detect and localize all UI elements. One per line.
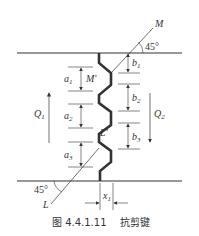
label-x1: x1: [102, 190, 111, 203]
label-Q1: Q1: [34, 108, 45, 121]
label-b3: b3: [132, 131, 141, 144]
label-L: L: [42, 199, 49, 210]
failure-line-L: [51, 148, 99, 204]
label-b2: b2: [132, 92, 141, 105]
angle-arc-bottom: [54, 181, 62, 192]
label-a3: a3: [64, 149, 73, 162]
angle-bottom-label: 45°: [34, 184, 48, 195]
label-b1: b1: [132, 57, 141, 70]
shear-key-diagram: M 45° L 45° M' L' a1 a2 a3 b1: [0, 0, 199, 236]
figure-caption-number: 图 4.4.1.11: [52, 217, 107, 228]
label-a2: a2: [64, 110, 73, 123]
label-M: M: [154, 18, 164, 29]
label-L-prime: L': [99, 127, 109, 138]
figure-caption-title: 抗剪键: [120, 216, 150, 228]
angle-top-label: 45°: [145, 41, 159, 52]
angle-arc-top: [139, 42, 144, 53]
shear-key-zigzag: [99, 53, 111, 181]
label-M-prime: M': [85, 73, 97, 84]
label-Q2: Q2: [154, 108, 165, 121]
label-a1: a1: [64, 73, 73, 86]
